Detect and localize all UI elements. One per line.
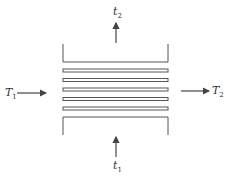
tube xyxy=(63,69,168,72)
lower-shell xyxy=(63,117,168,135)
cold-inlet-subscript: 1 xyxy=(117,166,121,174)
tube xyxy=(63,98,168,101)
hot-inlet-label: T1 xyxy=(5,87,17,101)
hot-outlet-label: T2 xyxy=(212,85,224,99)
hot-outlet-subscript: 2 xyxy=(219,91,223,99)
cold-inlet-label: t1 xyxy=(113,160,122,174)
tube xyxy=(63,107,168,110)
cold-outlet-subscript: 2 xyxy=(117,12,121,20)
cold-outlet-label: t2 xyxy=(113,6,122,20)
heat-exchanger-diagram xyxy=(0,0,232,182)
hot-inlet-subscript: 1 xyxy=(12,93,16,101)
tube xyxy=(63,88,168,91)
tube xyxy=(63,79,168,82)
upper-shell xyxy=(63,44,168,62)
tube-bundle xyxy=(63,69,168,110)
